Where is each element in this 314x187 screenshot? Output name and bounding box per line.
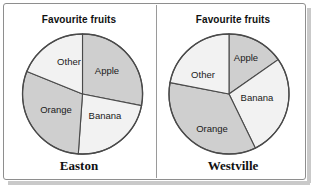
chart-title-easton: Favourite fruits [4, 14, 154, 25]
pie-label-orange: Orange [196, 123, 228, 134]
pie-label-other: Other [57, 56, 81, 67]
pie-chart-easton: Apple Banana Orange Other [4, 25, 154, 155]
panel-divider [156, 5, 157, 178]
pie-label-banana: Banana [241, 92, 274, 103]
chart-panel-westville: Favourite fruits Apple Banana Orange Oth… [158, 3, 308, 180]
chart-title-westville: Favourite fruits [158, 14, 308, 25]
figure-shadow-bottom [8, 181, 310, 185]
figure-root: Favourite fruits Apple Banana Orange Oth… [0, 0, 314, 187]
chart-panel-easton: Favourite fruits Apple Banana Orange Oth… [4, 3, 154, 180]
pie-label-other: Other [191, 69, 215, 80]
pie-label-banana: Banana [89, 110, 122, 121]
chart-caption-westville: Westville [158, 158, 308, 174]
pie-label-apple: Apple [234, 52, 258, 63]
pie-chart-westville: Apple Banana Orange Other [158, 25, 308, 155]
pie-label-apple: Apple [95, 65, 119, 76]
pie-label-orange: Orange [40, 104, 72, 115]
chart-caption-easton: Easton [4, 158, 154, 174]
